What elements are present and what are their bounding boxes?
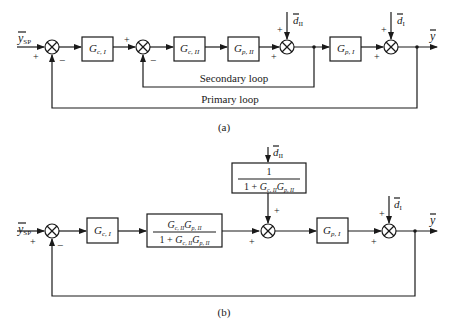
summing-junction-2: [136, 40, 150, 54]
output-label-y: y: [429, 29, 436, 43]
sign-plus: +: [30, 236, 36, 247]
secondary-loop-label: Secondary loop: [200, 72, 269, 84]
caption-a: (a): [218, 121, 231, 134]
sign-plus: +: [124, 34, 130, 45]
panel-b: ySP + − Gc, I Gc, IIGp, II 1 + Gc, IIGp,…: [17, 146, 437, 319]
primary-loop-label: Primary loop: [201, 93, 259, 105]
block-diagram-canvas: ySP + − Gc, I + − Gc, II Gp,: [0, 0, 449, 326]
summing-junction-1: [45, 40, 59, 54]
input-label-ysp: ySP: [17, 222, 31, 237]
sign-plus: +: [277, 24, 283, 35]
disturbance-tf-numerator: 1: [267, 166, 272, 177]
panel-a: ySP + − Gc, I + − Gc, II Gp,: [17, 12, 437, 134]
disturbance-label-d2: dII: [293, 14, 304, 28]
caption-b: (b): [218, 306, 231, 319]
summing-junction-4: [384, 40, 398, 54]
disturbance-label-d1: dI: [397, 14, 406, 28]
sign-minus: −: [59, 54, 65, 66]
sign-minus: −: [57, 239, 63, 251]
sign-plus: +: [33, 51, 39, 62]
output-label-y: y: [429, 213, 436, 227]
summing-junction-3: [382, 224, 396, 238]
sign-plus: +: [379, 208, 385, 219]
summing-junction-1: [45, 224, 59, 238]
summing-junction-3: [280, 40, 294, 54]
input-label-ysp: ySP: [17, 31, 31, 46]
sign-plus: +: [249, 236, 255, 247]
disturbance-label-d1: dI: [394, 198, 403, 212]
sign-plus: +: [374, 51, 380, 62]
sign-plus: +: [381, 24, 387, 35]
sign-plus: +: [274, 205, 280, 216]
sign-plus: +: [271, 51, 277, 62]
sign-minus: −: [150, 54, 156, 66]
sign-plus: +: [371, 236, 377, 247]
summing-junction-2: [261, 224, 275, 238]
disturbance-label-d2: dII: [273, 146, 284, 160]
